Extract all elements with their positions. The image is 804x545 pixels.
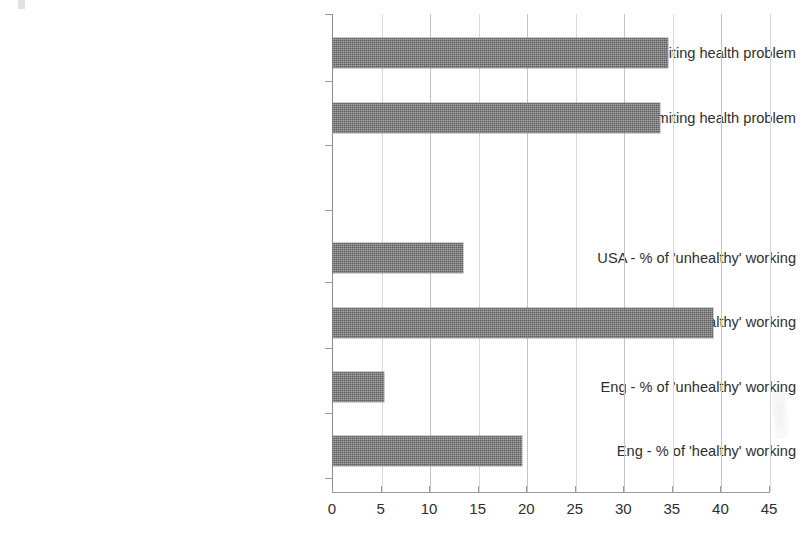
x-axis-label-30: 30 [603, 500, 643, 517]
x-axis-label-0: 0 [312, 500, 352, 517]
plot-area [332, 14, 769, 492]
y-axis-tick [325, 478, 332, 479]
x-axis-tick-0 [332, 486, 333, 493]
gridline-35 [673, 14, 674, 492]
x-axis-tick-10 [429, 486, 430, 493]
y-axis-tick [325, 210, 332, 211]
bar-2 [333, 243, 463, 273]
gridline-15 [479, 14, 480, 492]
bar-3 [333, 308, 713, 338]
gridline-30 [624, 14, 625, 492]
y-axis-tick [325, 81, 332, 82]
bar-0 [333, 38, 668, 68]
x-axis-label-40: 40 [700, 500, 740, 517]
x-axis-label-25: 25 [555, 500, 595, 517]
x-axis-tick-45 [769, 486, 770, 493]
y-axis-tick [325, 413, 332, 414]
x-axis-label-10: 10 [409, 500, 449, 517]
x-axis-label-35: 35 [652, 500, 692, 517]
y-axis-tick [325, 348, 332, 349]
x-axis-label-5: 5 [361, 500, 401, 517]
bar-5 [333, 436, 522, 466]
x-axis-line [332, 492, 770, 493]
x-axis-label-45: 45 [749, 500, 789, 517]
x-axis-label-15: 15 [458, 500, 498, 517]
y-axis-tick [325, 14, 332, 15]
scan-artifact-top-left [18, 0, 25, 9]
scan-artifact-right [772, 392, 788, 438]
x-axis-tick-30 [623, 486, 624, 493]
bar-1 [333, 103, 660, 133]
gridline-20 [527, 14, 528, 492]
x-axis-tick-5 [381, 486, 382, 493]
gridline-25 [576, 14, 577, 492]
bar-4 [333, 372, 384, 402]
gridline-40 [721, 14, 722, 492]
x-axis-label-20: 20 [506, 500, 546, 517]
gridline-45 [770, 14, 771, 492]
x-axis-tick-20 [526, 486, 527, 493]
y-axis-tick [325, 145, 332, 146]
x-axis-tick-35 [672, 486, 673, 493]
bar-chart: USA - % with work-limiting health proble… [0, 0, 804, 545]
x-axis-tick-40 [720, 486, 721, 493]
y-axis-tick [325, 282, 332, 283]
x-axis-tick-25 [575, 486, 576, 493]
x-axis-tick-15 [478, 486, 479, 493]
